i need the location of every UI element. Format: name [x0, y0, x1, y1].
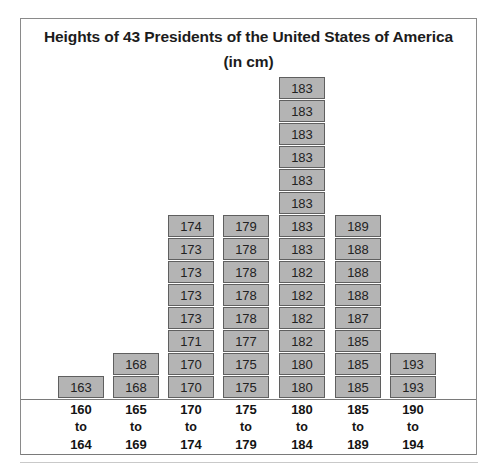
histogram-column: 170170171173173173173174 [168, 215, 214, 399]
histogram-block: 177 [223, 330, 269, 352]
histogram-block: 168 [113, 353, 159, 375]
histogram-block: 170 [168, 353, 214, 375]
histogram-column: 193193 [390, 353, 436, 399]
histogram-block: 168 [113, 376, 159, 398]
histogram-block: 178 [223, 238, 269, 260]
histogram-block: 193 [390, 353, 436, 375]
x-axis-label-low: 190 [378, 401, 448, 419]
histogram-block: 175 [223, 353, 269, 375]
histogram-block: 182 [279, 307, 325, 329]
histogram-column: 168168 [113, 353, 159, 399]
histogram-block: 187 [335, 307, 381, 329]
histogram-block: 183 [279, 238, 325, 260]
histogram-block: 173 [168, 261, 214, 283]
plot-area: 1631681681701701711731731731731741751751… [21, 19, 476, 399]
x-axis-label-high: 194 [378, 436, 448, 454]
histogram-block: 188 [335, 238, 381, 260]
histogram-block: 183 [279, 146, 325, 168]
histogram-column: 1801801821821821821831831831831831831831… [279, 77, 325, 399]
histogram-block: 183 [279, 77, 325, 99]
histogram-column: 185185185187188188188189 [335, 215, 381, 399]
x-axis-label-connector: to [378, 419, 448, 437]
histogram-block: 183 [279, 100, 325, 122]
chart-page: Heights of 43 Presidents of the United S… [0, 0, 496, 470]
histogram-block: 180 [279, 353, 325, 375]
histogram-block: 188 [335, 261, 381, 283]
histogram-block: 178 [223, 307, 269, 329]
histogram-block: 179 [223, 215, 269, 237]
histogram-block: 188 [335, 284, 381, 306]
histogram-block: 174 [168, 215, 214, 237]
histogram-block: 185 [335, 376, 381, 398]
histogram-block: 185 [335, 330, 381, 352]
figure-bottom-edge [20, 462, 478, 463]
histogram-block: 171 [168, 330, 214, 352]
histogram-column: 163 [58, 376, 104, 399]
histogram-block: 178 [223, 284, 269, 306]
histogram-block: 189 [335, 215, 381, 237]
histogram-block: 178 [223, 261, 269, 283]
histogram-block: 170 [168, 376, 214, 398]
histogram-block: 175 [223, 376, 269, 398]
histogram-column: 175175177178178178178179 [223, 215, 269, 399]
histogram-block: 182 [279, 261, 325, 283]
histogram-block: 183 [279, 169, 325, 191]
histogram-block: 163 [58, 376, 104, 398]
histogram-block: 180 [279, 376, 325, 398]
x-axis-label: 190to194 [378, 401, 448, 454]
histogram-block: 182 [279, 284, 325, 306]
histogram-block: 183 [279, 123, 325, 145]
histogram-block: 182 [279, 330, 325, 352]
axis-top-rule [21, 399, 476, 400]
histogram-block: 173 [168, 284, 214, 306]
histogram-block: 193 [390, 376, 436, 398]
x-axis-labels: 160to164165to169170to174175to179180to184… [21, 401, 476, 453]
axis-bottom-rule [21, 454, 476, 455]
histogram-block: 173 [168, 238, 214, 260]
histogram-block: 185 [335, 353, 381, 375]
histogram-block: 173 [168, 307, 214, 329]
histogram-block: 183 [279, 192, 325, 214]
histogram-block: 183 [279, 215, 325, 237]
